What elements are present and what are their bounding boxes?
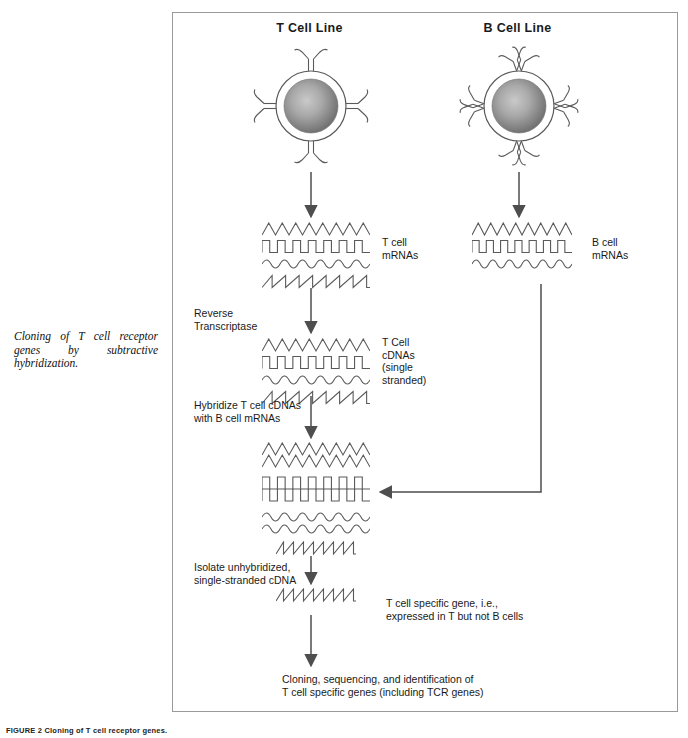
strand-zigzag [262, 455, 370, 467]
t-cell-specific-gene-strand [276, 588, 356, 610]
hybridized-duplex-strands [262, 442, 370, 548]
strand-sawtooth [276, 589, 356, 601]
b-cell-mrna-strands [472, 222, 572, 279]
t-cell-cdna-label: T Cell cDNAs (single stranded) [382, 336, 426, 386]
reverse-transcriptase-label: Reverse Transcriptase [194, 307, 257, 332]
t-cell-line-title: T Cell Line [247, 21, 372, 35]
final-cloning-step-label: Cloning, sequencing, and identification … [282, 673, 484, 699]
strand-square [262, 241, 370, 253]
hybridize-step-label: Hybridize T cell cDNAs with B cell mRNAs [194, 399, 301, 424]
strand-zigzag [262, 443, 370, 455]
strand-sine [262, 513, 370, 521]
strand-sine [262, 376, 370, 384]
t-cell-specific-gene-label: T cell specific gene, i.e., expressed in… [386, 597, 523, 622]
strand-sawtooth [276, 542, 356, 554]
t-cell-nucleus [284, 79, 338, 133]
strand-sawtooth [262, 276, 370, 288]
strand-sine [262, 525, 370, 533]
t-cell-mrna-strands [262, 222, 370, 296]
figure-side-caption: Cloning of T cell receptor genes by subt… [14, 330, 158, 371]
strand-square [262, 477, 370, 489]
t-cell-mrna-label: T cell mRNAs [382, 236, 418, 261]
strand-zigzag [262, 223, 370, 235]
figure-number-caption: FIGURE 2 Cloning of T cell receptor gene… [6, 726, 406, 735]
strand-zigzag [472, 223, 572, 235]
b-cell-mrna-label: B cell mRNAs [592, 236, 628, 261]
strand-square [262, 489, 370, 501]
b-cell-line-title: B Cell Line [455, 21, 580, 35]
strand-sine [262, 260, 370, 268]
strand-zigzag [262, 339, 370, 351]
b-cell-diagram [451, 38, 587, 178]
isolate-step-label: Isolate unhybridized, single-stranded cD… [194, 561, 296, 586]
strand-square [262, 357, 370, 369]
strand-sine [472, 260, 572, 268]
t-cell-diagram [243, 38, 379, 178]
figure-root: Cloning of T cell receptor genes by subt… [0, 0, 688, 738]
b-cell-nucleus [492, 79, 546, 133]
unhybridized-cdna-strand [276, 541, 356, 563]
strand-square [472, 241, 572, 253]
